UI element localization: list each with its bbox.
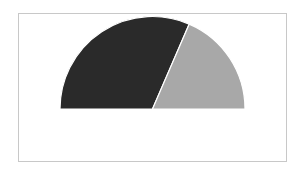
- pie-slices: [60, 16, 245, 109]
- semicircle-pie-chart: [0, 0, 308, 177]
